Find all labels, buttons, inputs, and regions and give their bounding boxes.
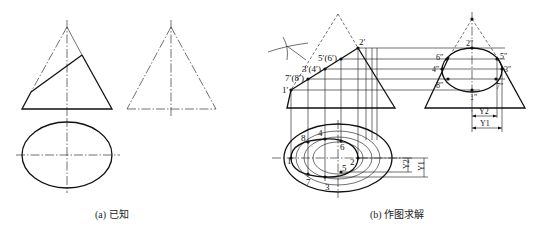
removed-edge-left (31, 27, 67, 92)
point-8-top (306, 140, 309, 143)
cutting-plane-trace (31, 55, 82, 92)
label-2-front: 2′ (359, 37, 366, 47)
point-8-side (446, 77, 449, 80)
label-3-side: 3″ (504, 65, 511, 74)
label-2-top: 2 (350, 157, 355, 167)
label-78-front: 7′(8′) (285, 73, 304, 83)
figure-b: 1′ 2′ 3′(4′) 5′(6′) 7′(8′) 1″ 2″ 3″ 4″ 5… (268, 12, 525, 198)
label-3-top: 3 (325, 182, 330, 192)
label-1-side: 1″ (470, 93, 477, 102)
figure-a (16, 20, 216, 193)
label-2-side: 2″ (466, 39, 473, 48)
label-8-side: 8″ (436, 81, 443, 90)
dim-label-y2-top: Y2 (402, 159, 411, 169)
removed-edge-right (67, 27, 82, 55)
point-4-side (440, 67, 443, 70)
label-5-top: 5 (342, 163, 347, 173)
label-34-front: 3′(4′) (302, 64, 321, 74)
point-4-top (323, 137, 326, 140)
label-56-front: 5′(6′) (318, 53, 337, 63)
dim-label-y2-side: Y2 (479, 107, 489, 116)
label-4-side: 4″ (432, 65, 439, 74)
arc-1 (268, 43, 308, 52)
front-labels: 1′ 2′ 3′(4′) 5′(6′) 7′(8′) (282, 37, 366, 95)
caption-b: (b) 作图求解 (370, 206, 424, 221)
label-6-top: 6 (340, 142, 345, 152)
label-7-side: 7″ (496, 82, 503, 91)
apex-point (470, 17, 473, 20)
left-edge (127, 27, 171, 109)
dim-label-y1-side: Y1 (480, 119, 490, 128)
construction-arcs (268, 37, 308, 60)
bisector (287, 46, 306, 60)
label-1-top: 1 (287, 156, 292, 166)
top-view-a (16, 118, 120, 193)
side-labels: 1″ 2″ 3″ 4″ 5″ 6″ 7″ 8″ Y2 Y1 (432, 39, 511, 128)
drawing-canvas: .thick { stroke:#111; stroke-width:1.3; … (0, 0, 537, 232)
point-7-top (306, 172, 309, 175)
removed-edge-left (449, 19, 472, 57)
label-5-side: 5″ (500, 52, 507, 61)
point-1-side (470, 88, 473, 91)
side-view-a (127, 20, 216, 116)
point-6-side (445, 57, 448, 60)
front-view-a (22, 20, 112, 118)
dim-label-y1-top: Y1 (417, 161, 426, 171)
label-6-side: 6″ (436, 53, 443, 62)
label-7-top: 7 (306, 177, 311, 187)
label-4-top: 4 (318, 128, 323, 138)
label-1-front: 1′ (282, 85, 289, 95)
removed-edge-right (472, 19, 497, 57)
right-edge (171, 27, 216, 109)
caption-a: (a) 已知 (95, 206, 129, 221)
arc-2 (283, 37, 288, 60)
removed-edge-right (338, 14, 358, 48)
label-8-top: 8 (301, 133, 306, 143)
